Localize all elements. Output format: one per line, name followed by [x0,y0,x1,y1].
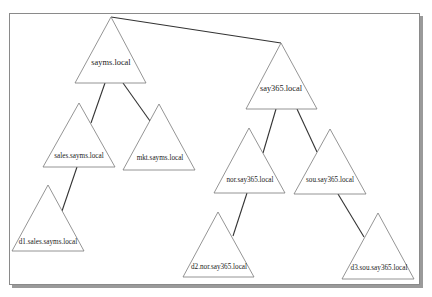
node-label: d1.sales.sayms.local [19,238,78,246]
node-label: sou.say365.local [306,176,354,184]
domain-tree-diagram: sayms.local say365.local sales.sayms.loc… [0,0,432,297]
node-label: sayms.local [91,58,131,67]
node-label: d2.nor.say365.local [191,263,247,271]
node-label: d3.sou.say365.local [351,264,408,272]
node-label: nor.say365.local [226,176,273,184]
node-label: sales.sayms.local [54,152,104,160]
node-label: mkt.sayms.local [137,154,184,162]
node-label: say365.local [260,84,303,93]
